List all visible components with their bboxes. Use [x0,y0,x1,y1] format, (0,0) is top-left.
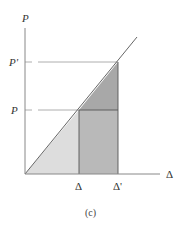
dark-triangle-region [79,62,118,110]
figure-caption: (c) [85,207,96,219]
p-prime-tick-label: P' [8,56,19,68]
delta-prime-tick-label: Δ' [113,180,122,192]
p-tick-label: P [10,104,18,116]
delta-tick-label: Δ [75,180,82,192]
load-deflection-diagram: P P' P Δ Δ Δ' (c) [0,0,189,232]
rectangle-region [79,110,118,174]
x-axis-label: Δ [166,168,173,180]
y-axis-label: P [21,12,29,24]
